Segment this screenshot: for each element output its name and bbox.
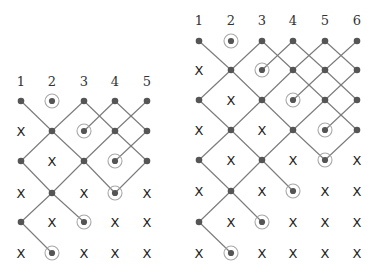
x-mark-icon: X	[80, 186, 89, 201]
x-mark-icon: X	[48, 154, 57, 169]
dot-node	[290, 67, 297, 74]
dot-node	[144, 128, 151, 135]
column-label: 4	[111, 74, 119, 89]
x-mark-icon: X	[143, 246, 152, 261]
circled-dot-node	[318, 153, 332, 167]
dot-node	[290, 38, 297, 45]
dot-node	[196, 97, 203, 104]
diagram-canvas: 12345 XXXXXXXXXXXX 123456 XXXXXXXXXXXXXX…	[0, 0, 381, 278]
x-mark-icon: X	[353, 215, 362, 230]
dot-icon	[290, 188, 296, 194]
dot-node	[144, 98, 151, 105]
dot-node	[196, 38, 203, 45]
x-mark-icon: X	[258, 184, 267, 199]
circled-dot-node	[108, 154, 122, 168]
x-mark-icon: X	[258, 123, 267, 138]
circled-dot-node	[318, 123, 332, 137]
edges	[199, 41, 357, 253]
dot-icon	[81, 219, 87, 225]
x-mark-icon: X	[195, 63, 204, 78]
dot-icon	[259, 219, 265, 225]
dot-node	[81, 98, 88, 105]
x-mark-icon: X	[17, 186, 26, 201]
dot-icon	[81, 128, 87, 134]
dot-icon	[259, 67, 265, 73]
circled-dot-node	[108, 186, 122, 200]
x-mark-icon: X	[227, 215, 236, 230]
dot-icon	[112, 158, 118, 164]
circled-dot-node	[77, 124, 91, 138]
column-labels: 123456	[195, 13, 361, 28]
dot-icon	[112, 190, 118, 196]
dot-node	[18, 158, 25, 165]
x-mark-icon: X	[80, 246, 89, 261]
x-mark-icon: X	[143, 186, 152, 201]
dot-node	[81, 158, 88, 165]
column-label: 4	[289, 13, 297, 28]
dot-node	[228, 188, 235, 195]
x-mark-icon: X	[353, 184, 362, 199]
x-mark-icon: X	[143, 215, 152, 230]
x-mark-icon: X	[48, 215, 57, 230]
x-mark-icon: X	[321, 246, 330, 261]
x-mark-icon: X	[258, 246, 267, 261]
dot-node	[322, 97, 329, 104]
dot-node	[112, 128, 119, 135]
x-mark-icon: X	[353, 246, 362, 261]
dot-node	[259, 38, 266, 45]
dot-node	[290, 127, 297, 134]
column-label: 6	[353, 13, 361, 28]
column-label: 1	[17, 74, 25, 89]
dot-icon	[322, 127, 328, 133]
column-label: 5	[143, 74, 151, 89]
x-mark-icon: X	[195, 184, 204, 199]
dot-node	[18, 219, 25, 226]
dot-node	[228, 127, 235, 134]
dot-icon	[290, 97, 296, 103]
dot-node	[18, 98, 25, 105]
dot-icon	[49, 250, 55, 256]
x-mark-icon: X	[353, 153, 362, 168]
circled-dot-node	[255, 215, 269, 229]
column-labels: 12345	[17, 74, 151, 89]
circled-dot-node	[77, 215, 91, 229]
x-mark-icon: X	[195, 246, 204, 261]
column-label: 5	[321, 13, 329, 28]
column-label: 3	[258, 13, 266, 28]
dot-node	[354, 97, 361, 104]
dot-node	[144, 158, 151, 165]
nodes: XXXXXXXXXXXXXXXXXXXX	[195, 34, 362, 261]
dot-icon	[322, 157, 328, 163]
x-mark-icon: X	[111, 246, 120, 261]
circled-dot-node	[255, 63, 269, 77]
dot-node	[112, 98, 119, 105]
column-label: 1	[195, 13, 203, 28]
x-mark-icon: X	[321, 184, 330, 199]
edge-line	[231, 41, 262, 70]
dot-node	[196, 157, 203, 164]
x-mark-icon: X	[227, 153, 236, 168]
dot-node	[322, 38, 329, 45]
dot-node	[228, 67, 235, 74]
column-label: 3	[80, 74, 88, 89]
dot-node	[354, 67, 361, 74]
x-mark-icon: X	[17, 246, 26, 261]
x-mark-icon: X	[289, 215, 298, 230]
circled-dot-node	[286, 184, 300, 198]
dot-node	[196, 219, 203, 226]
x-mark-icon: X	[195, 123, 204, 138]
left-diagram: 12345 XXXXXXXXXXXX	[17, 74, 152, 261]
circled-dot-node	[224, 246, 238, 260]
dot-icon	[228, 250, 234, 256]
circled-dot-node	[45, 94, 59, 108]
circled-dot-node	[224, 34, 238, 48]
right-diagram: 123456 XXXXXXXXXXXXXXXXXXXX	[195, 13, 362, 261]
dot-node	[354, 38, 361, 45]
x-mark-icon: X	[289, 153, 298, 168]
x-mark-icon: X	[111, 215, 120, 230]
dot-icon	[228, 38, 234, 44]
circled-dot-node	[286, 93, 300, 107]
column-label: 2	[48, 74, 56, 89]
x-mark-icon: X	[289, 246, 298, 261]
circled-dot-node	[45, 246, 59, 260]
